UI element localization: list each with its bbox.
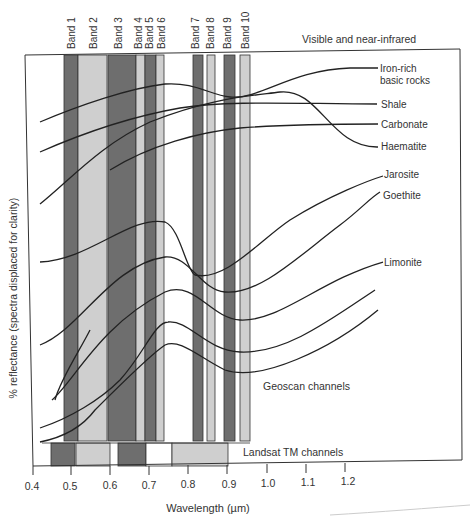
band-label-4: Band 4	[133, 17, 144, 49]
landsat-gap	[146, 443, 172, 466]
label-carbonate: Carbonate	[381, 119, 428, 130]
band-label-5: Band 5	[144, 17, 155, 49]
band-label-10: Band 10	[240, 11, 251, 49]
tick-1.0: 1.0	[261, 477, 276, 489]
tick-0.6: 0.6	[103, 479, 118, 491]
geoscan-channels-label: Geoscan channels	[263, 380, 350, 392]
band-1-strip	[64, 55, 78, 441]
label-shale: Shale	[381, 99, 407, 110]
band-10-strip	[240, 55, 250, 441]
band-7-strip	[193, 55, 203, 441]
landsat-band-1	[51, 443, 75, 466]
spectral-reflectance-diagram: Iron-rich basic rocks Shale Carbonate Ha…	[0, 0, 470, 518]
tick-0.8: 0.8	[181, 478, 196, 490]
band-9-strip	[224, 55, 235, 441]
x-axis-label: Wavelength (µm)	[166, 502, 250, 514]
label-limonite: Limonite	[384, 257, 422, 268]
label-goethite: Goethite	[383, 190, 421, 201]
label-jarosite: Jarosite	[384, 169, 419, 180]
page-edge-line	[330, 505, 470, 515]
band-label-1: Band 1	[66, 17, 77, 49]
x-tick-labels: 0.4 0.5 0.6 0.7 0.8 0.9 1.0 1.1 1.2	[25, 475, 356, 492]
y-axis-label: % reflectance (spectra displaced for cla…	[7, 198, 19, 399]
landsat-band-4	[172, 443, 228, 466]
label-haematite: Haematite	[381, 141, 427, 152]
landsat-channels-label: Landsat TM channels	[243, 446, 343, 458]
label-iron-rich-1: Iron-rich	[380, 63, 417, 74]
landsat-band-3	[118, 443, 146, 466]
band-label-7: Band 7	[190, 17, 201, 49]
tick-0.5: 0.5	[63, 480, 78, 492]
band-label-9: Band 9	[222, 17, 233, 49]
tick-0.7: 0.7	[142, 479, 157, 491]
band-label-3: Band 3	[113, 17, 124, 49]
landsat-bands	[42, 443, 250, 466]
tick-1.2: 1.2	[341, 475, 356, 487]
band-label-6: Band 6	[156, 17, 167, 49]
band-4-strip	[136, 55, 145, 441]
tick-0.4: 0.4	[25, 480, 40, 492]
band-label-8: Band 8	[205, 17, 216, 49]
band-2-strip	[78, 55, 107, 441]
landsat-band-2	[76, 443, 110, 466]
label-iron-rich-2: basic rocks	[380, 75, 430, 86]
band-labels: Band 1 Band 2 Band 3 Band 4 Band 5 Band …	[66, 11, 251, 49]
band-8-strip	[207, 55, 215, 441]
tick-0.9: 0.9	[222, 478, 237, 490]
tick-1.1: 1.1	[301, 476, 316, 488]
chart-title: Visible and near-infrared	[302, 33, 416, 45]
curve-labels: Iron-rich basic rocks Shale Carbonate Ha…	[380, 63, 430, 268]
band-label-2: Band 2	[88, 17, 99, 49]
